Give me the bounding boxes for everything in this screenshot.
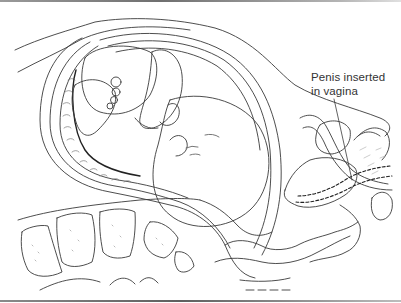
vaginal-canal — [296, 115, 392, 202]
anatomical-illustration: Penis inserted in vagina — [0, 0, 401, 303]
label-line-1: Penis inserted — [311, 70, 385, 84]
bottom-rule — [0, 300, 401, 302]
annotation-label: Penis inserted in vagina — [311, 70, 385, 98]
spine — [18, 199, 200, 291]
pelvic-organs — [200, 121, 392, 290]
sagittal-section-drawing — [0, 0, 401, 303]
label-line-2: in vagina — [311, 84, 385, 98]
